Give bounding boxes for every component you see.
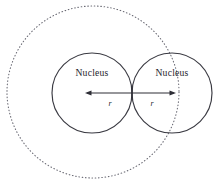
outer-dotted-circle: [7, 6, 179, 178]
nucleus-diagram-figure: Nucleus Nucleus r r: [0, 0, 223, 187]
left-nucleus-label: Nucleus: [75, 67, 108, 78]
diagram-canvas: Nucleus Nucleus r r: [0, 0, 223, 187]
left-arrowhead-icon: [85, 91, 92, 96]
right-nucleus-label: Nucleus: [155, 67, 188, 78]
right-radius-label: r: [150, 99, 154, 108]
right-arrowhead-icon: [170, 91, 177, 96]
left-radius-label: r: [108, 99, 112, 108]
